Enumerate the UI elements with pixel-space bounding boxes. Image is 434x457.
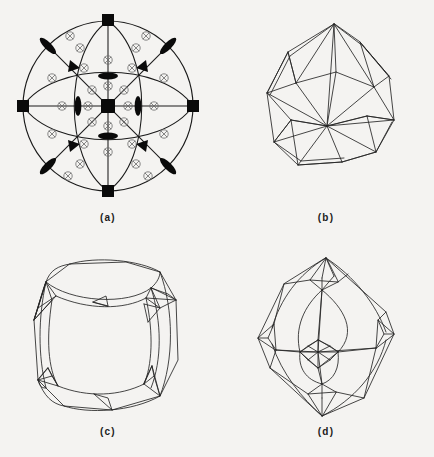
panel-c-polyhedron: (c) (8, 248, 208, 454)
panel-c-caption: (c) (8, 426, 208, 437)
polyhedron-b-edges (267, 24, 394, 165)
polyhedron-c-svg (8, 248, 208, 424)
panel-a-stereogram: (a) (8, 2, 208, 240)
polyhedron-c-edges (34, 260, 178, 411)
panel-a-caption: (a) (8, 212, 208, 223)
figure-root: (a) (0, 0, 434, 457)
polyhedron-d-svg (226, 248, 426, 424)
panel-b-caption: (b) (226, 212, 426, 223)
panel-d-caption: (d) (226, 426, 426, 437)
stereogram-svg (8, 2, 208, 210)
panel-d-polyhedron: (d) (226, 248, 426, 454)
panel-b-polyhedron: (b) (226, 2, 426, 240)
polyhedron-b-svg (226, 2, 426, 210)
polyhedron-d-edges (258, 258, 394, 416)
